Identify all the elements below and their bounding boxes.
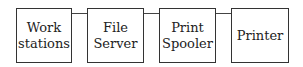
node-label: Server	[93, 36, 137, 51]
node-print-spooler: PrintSpooler	[159, 8, 216, 63]
node-label: Spooler	[162, 36, 213, 51]
node-label: File	[103, 20, 128, 35]
node-file-server: FileServer	[87, 8, 144, 63]
node-label: Work	[27, 20, 61, 35]
node-label: Printer	[237, 28, 284, 43]
connector-print-spooler-printer	[215, 13, 232, 14]
connector-file-server-print-spooler	[143, 13, 160, 14]
node-printer: Printer	[231, 8, 289, 63]
node-label: stations	[18, 36, 70, 51]
node-workstations: Workstations	[16, 8, 72, 63]
node-label: Print	[171, 20, 204, 35]
connector-workstations-file-server	[71, 13, 87, 14]
